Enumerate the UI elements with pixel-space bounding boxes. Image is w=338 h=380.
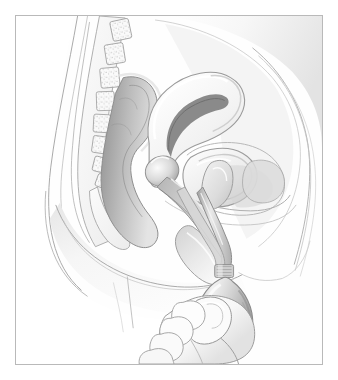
device-collar [215,265,234,278]
medical-illustration-figure [16,16,322,364]
illustration-page: Sagittal section of the female pelvis wi… [0,0,338,380]
illustration-frame: Sagittal section of the female pelvis wi… [15,15,323,365]
